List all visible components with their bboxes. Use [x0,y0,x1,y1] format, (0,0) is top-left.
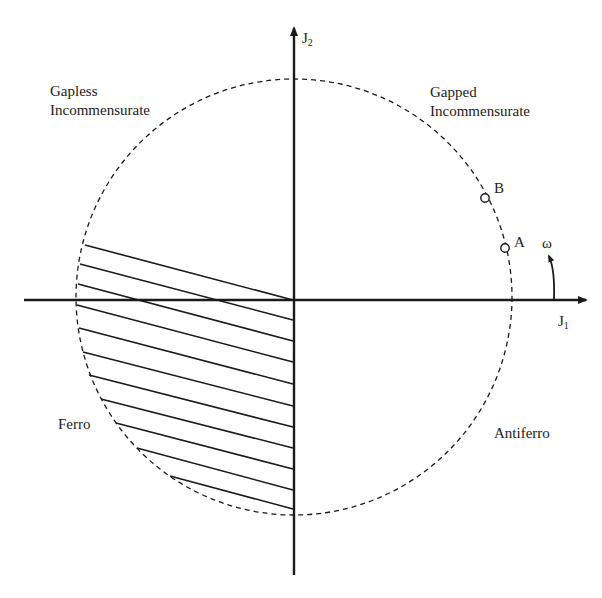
point-a-label: A [514,233,525,252]
omega-arrow [549,256,554,299]
point-b-label: B [494,179,504,198]
j1-axis-label: J1 [558,312,569,335]
region-gapless-line1: Gapless [50,82,150,101]
point-b-marker [481,194,489,202]
j2-label-subscript: 2 [308,37,313,48]
ferro-hatching [77,245,293,509]
omega-label: ω [542,234,552,253]
region-gapless-line2: Incommensurate [50,101,150,120]
region-ferro: Ferro [58,415,91,434]
j2-axis-label: J2 [302,29,313,52]
region-gapped-line2: Incommensurate [430,102,530,121]
region-gapless-incommensurate: Gapless Incommensurate [50,82,150,120]
region-antiferro: Antiferro [494,424,550,443]
region-gapped-line1: Gapped [430,83,530,102]
region-gapped-incommensurate: Gapped Incommensurate [430,83,530,121]
j1-label-subscript: 1 [564,320,569,331]
point-a-marker [501,244,509,252]
